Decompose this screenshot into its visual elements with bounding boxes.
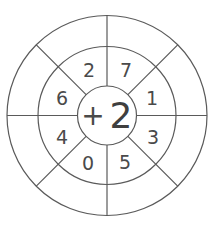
- inner-number: 6: [56, 87, 68, 109]
- inner-number: 4: [56, 126, 68, 148]
- inner-number: 0: [82, 152, 94, 174]
- inner-number: 1: [146, 87, 158, 109]
- inner-number: 3: [147, 126, 159, 148]
- operator-plus: +: [81, 99, 104, 132]
- inner-number: 5: [119, 151, 131, 173]
- inner-number: 2: [83, 59, 95, 81]
- operand-number: 2: [110, 95, 133, 136]
- inner-number: 7: [120, 59, 132, 81]
- math-wheel: + 2 2 7 1 3 5 0 4 6: [0, 0, 209, 226]
